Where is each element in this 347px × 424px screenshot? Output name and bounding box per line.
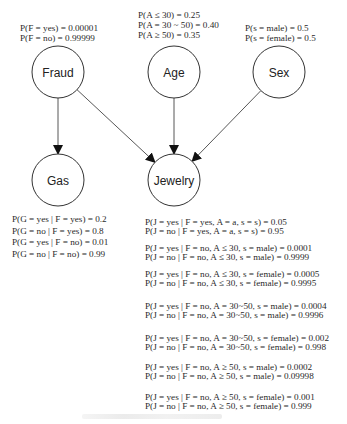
- prob-line: P(F = yes) = 0.00001: [20, 23, 98, 33]
- edges: [58, 90, 261, 163]
- bayesian-network-diagram: Fraud Age Sex Gas Jewelry: [0, 0, 347, 424]
- node-age: Age: [148, 46, 200, 98]
- prob-line: P(s = male) = 0.5: [245, 23, 309, 33]
- prob-line: P(G = no | F = yes) = 0.8: [12, 226, 104, 236]
- node-sex: Sex: [253, 46, 305, 98]
- prob-line: P(A ≥ 50) = 0.35: [138, 30, 200, 40]
- prob-line: P(J = no | F = no, A ≤ 30, s = female) =…: [145, 278, 316, 288]
- prob-line: P(J = no | F = no, A = 30~50, s = male) …: [145, 310, 323, 320]
- prob-line: P(J = no | F = no, A ≤ 30, s = male) = 0…: [145, 252, 309, 262]
- node-gas-label: Gas: [47, 174, 69, 188]
- edge-sex-to-jewelry: [192, 91, 261, 162]
- edge-fraud-to-jewelry: [77, 90, 155, 163]
- node-gas: Gas: [32, 154, 84, 206]
- prob-line: P(A ≤ 30) = 0.25: [138, 10, 200, 20]
- prob-line: P(A = 30 ~ 50) = 0.40: [138, 20, 219, 30]
- node-jewelry-label: Jewelry: [154, 174, 195, 188]
- node-age-label: Age: [163, 66, 185, 80]
- node-fraud: Fraud: [32, 46, 84, 98]
- prob-line: P(s = female) = 0.5: [245, 33, 316, 43]
- prob-line: P(G = yes | F = yes) = 0.2: [12, 214, 107, 224]
- prob-line: P(F = no) = 0.99999: [20, 33, 95, 43]
- prob-line: P(J = no | F = no, A = 30~50, s = female…: [145, 342, 326, 352]
- prob-line: P(J = no | F = yes, A = a, s = s) = 0.95: [145, 226, 284, 236]
- faint-caption: [82, 414, 222, 419]
- node-sex-label: Sex: [269, 66, 290, 80]
- nodes: Fraud Age Sex Gas Jewelry: [32, 46, 305, 206]
- prob-line: P(J = no | F = no, A ≥ 50, s = female) =…: [145, 401, 312, 411]
- node-jewelry: Jewelry: [148, 154, 200, 206]
- prob-line: P(G = no | F = no) = 0.99: [12, 249, 105, 259]
- node-fraud-label: Fraud: [42, 66, 73, 80]
- prob-line: P(J = no | F = no, A ≥ 50, s = male) = 0…: [145, 371, 314, 381]
- prob-line: P(G = yes | F = no) = 0.01: [12, 237, 108, 247]
